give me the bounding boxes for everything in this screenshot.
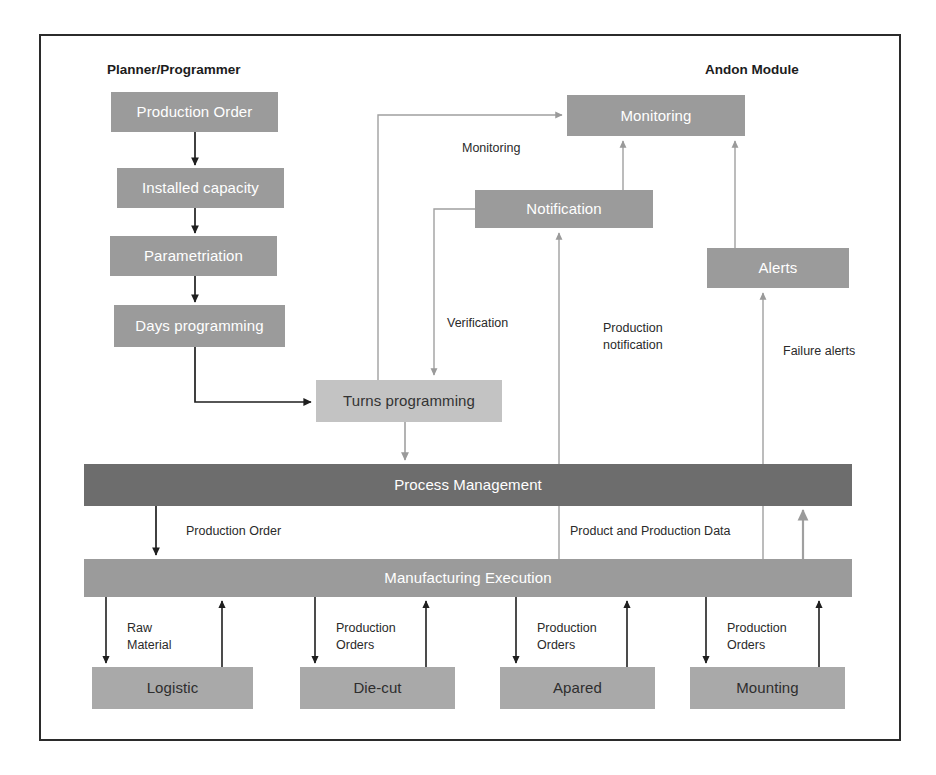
edge-label-production-orders-mounting: Production Orders (727, 620, 787, 654)
edge-label-monitoring: Monitoring (462, 140, 520, 157)
node-mounting[interactable]: Mounting (690, 667, 845, 709)
edge-label-production-order: Production Order (186, 523, 281, 540)
edge-label-raw-material: Raw Material (127, 620, 171, 654)
heading-andon-module: Andon Module (705, 62, 799, 77)
node-die-cut[interactable]: Die-cut (300, 667, 455, 709)
edge-label-production-notification: Production notification (603, 320, 663, 354)
heading-planner-programmer: Planner/Programmer (107, 62, 241, 77)
node-days-programming[interactable]: Days programming (114, 305, 285, 347)
edge-label-production-orders-apared: Production Orders (537, 620, 597, 654)
node-process-management[interactable]: Process Management (84, 464, 852, 506)
edge-label-product-and-production-data: Product and Production Data (570, 523, 731, 540)
node-turns-programming[interactable]: Turns programming (316, 380, 502, 422)
node-production-order[interactable]: Production Order (111, 92, 278, 132)
edge-label-failure-alerts: Failure alerts (783, 343, 855, 360)
node-alerts[interactable]: Alerts (707, 248, 849, 288)
node-logistic[interactable]: Logistic (92, 667, 253, 709)
node-installed-capacity[interactable]: Installed capacity (117, 168, 284, 208)
node-apared[interactable]: Apared (500, 667, 655, 709)
node-notification[interactable]: Notification (475, 190, 653, 228)
node-manufacturing-execution[interactable]: Manufacturing Execution (84, 559, 852, 597)
node-monitoring[interactable]: Monitoring (567, 95, 745, 136)
edge-label-production-orders-die-cut: Production Orders (336, 620, 396, 654)
edge-label-verification: Verification (447, 315, 508, 332)
diagram-canvas: Planner/Programmer Andon Module Producti… (0, 0, 936, 775)
node-parametriation[interactable]: Parametriation (110, 236, 277, 276)
